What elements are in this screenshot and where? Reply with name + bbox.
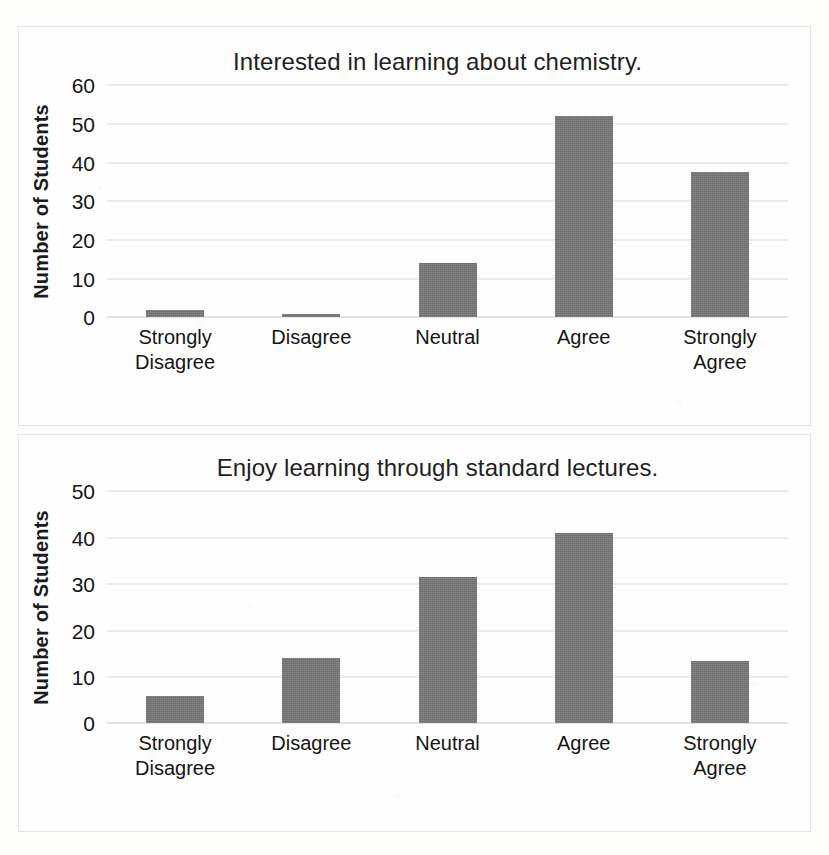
y-axis-tick-label: 0 [83,713,95,734]
x-axis-label-line1: Strongly [683,732,756,754]
bar-slot [107,85,243,317]
bar[interactable] [691,172,749,317]
gridlines [107,491,788,723]
x-axis-label-line1: Strongly [138,732,211,754]
x-axis-label-line1: Neutral [415,326,479,348]
x-axis-label-line1: Neutral [415,732,479,754]
y-axis-tick-label: 40 [72,527,95,548]
bar[interactable] [555,533,613,723]
y-axis-title-label: Number of Students [30,104,53,299]
bar[interactable] [282,658,340,723]
y-axis-tick-label: 30 [72,191,95,212]
bar-slot [243,85,379,317]
bar[interactable] [419,263,477,317]
bar-slot [379,491,515,723]
plot-area: Number of Students 50403020100 StronglyD… [19,491,810,791]
x-axis-label: Neutral [379,731,515,781]
x-axis-label-line2: Agree [652,350,788,375]
chart-title: Interested in learning about chemistry. [19,27,810,75]
bar-slot [107,491,243,723]
y-axis-tick-label: 20 [72,620,95,641]
bar[interactable] [146,310,204,318]
bar-series [107,491,788,723]
x-axis-label: StronglyDisagree [107,325,243,375]
bar-slot [516,491,652,723]
x-axis-label-line1: Strongly [683,326,756,348]
bar[interactable] [555,116,613,317]
document-page: Interested in learning about chemistry. … [0,0,829,855]
x-axis-label: StronglyAgree [652,325,788,375]
x-axis-labels: StronglyDisagreeDisagreeNeutralAgreeStro… [107,325,788,375]
bar-slot [652,491,788,723]
x-axis-label: Neutral [379,325,515,375]
x-axis-label: StronglyDisagree [107,731,243,781]
x-axis-label-line2: Disagree [107,350,243,375]
y-axis-tick-label: 50 [72,114,95,135]
x-axis-label-line1: Disagree [271,732,351,754]
chart-title: Enjoy learning through standard lectures… [19,435,810,481]
bar-series [107,85,788,317]
y-axis-ticks: 6050403020100 [55,85,101,317]
y-axis-tick-label: 10 [72,666,95,687]
bar[interactable] [419,577,477,723]
y-axis-tick-label: 60 [72,75,95,96]
gridlines [107,85,788,317]
y-axis-tick-label: 40 [72,152,95,173]
bar-slot [243,491,379,723]
x-axis-label-line2: Agree [652,756,788,781]
bar[interactable] [146,696,204,724]
y-axis-ticks: 50403020100 [55,491,101,723]
y-axis-title: Number of Students [27,491,55,723]
x-axis-labels: StronglyDisagreeDisagreeNeutralAgreeStro… [107,731,788,781]
x-axis-label-line1: Agree [557,732,610,754]
bar-slot [516,85,652,317]
x-axis-label: Agree [516,325,652,375]
bar[interactable] [282,314,340,318]
bar[interactable] [691,661,749,724]
y-axis-title: Number of Students [27,85,55,317]
y-axis-tick-label: 0 [83,307,95,328]
plot-area: Number of Students 6050403020100 Strongl… [19,85,810,385]
chart-card-enjoy-standard-lectures: Enjoy learning through standard lectures… [18,434,811,832]
x-axis-label: Disagree [243,731,379,781]
x-axis-label-line1: Strongly [138,326,211,348]
x-axis-label: Disagree [243,325,379,375]
y-axis-tick-label: 50 [72,481,95,502]
x-axis-label-line1: Disagree [271,326,351,348]
y-axis-tick-label: 10 [72,268,95,289]
x-axis-label: StronglyAgree [652,731,788,781]
x-axis-label-line1: Agree [557,326,610,348]
y-axis-title-label: Number of Students [30,510,53,705]
bar-slot [652,85,788,317]
x-axis-label-line2: Disagree [107,756,243,781]
bar-slot [379,85,515,317]
y-axis-tick-label: 20 [72,230,95,251]
chart-card-interested-chemistry: Interested in learning about chemistry. … [18,26,811,426]
y-axis-tick-label: 30 [72,574,95,595]
x-axis-label: Agree [516,731,652,781]
